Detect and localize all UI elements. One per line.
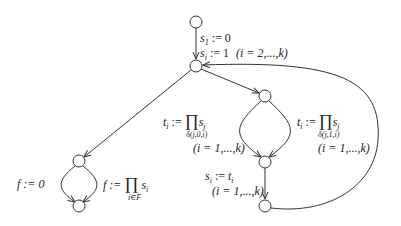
edge-f-prod bbox=[83, 166, 97, 202]
label-t-delta0: ti := ∏sj bbox=[163, 112, 206, 131]
node-left-bottom bbox=[73, 200, 85, 212]
label-s-update-range: (i = 1,...,k) bbox=[212, 185, 264, 197]
label-t-delta1-range: (i = 1,...,k) bbox=[318, 142, 370, 154]
node-right-mid bbox=[259, 156, 271, 168]
label-init-s1: s1 := 0 bbox=[200, 32, 231, 47]
node-right-bottom bbox=[259, 200, 271, 212]
edge-f-zero bbox=[61, 166, 75, 202]
label-init-si: si := 1 (i = 2,...,k) bbox=[200, 47, 288, 62]
label-t-delta1: ti := ∏sj bbox=[297, 112, 340, 131]
label-t-delta1-under: δ(j,1,i) bbox=[318, 131, 340, 139]
node-right-top bbox=[259, 90, 271, 102]
label-t-delta0-range: (i = 1,...,k) bbox=[193, 142, 245, 154]
node-left-top bbox=[73, 155, 85, 167]
node-start bbox=[190, 16, 202, 28]
label-t-delta0-under: δ(j,0,i) bbox=[186, 131, 208, 139]
edge-hub-right bbox=[201, 69, 259, 93]
label-f-prod-under: i∈F bbox=[128, 194, 141, 202]
label-f-zero: f := 0 bbox=[17, 178, 44, 190]
edge-t-right-branch bbox=[269, 101, 290, 157]
label-s-update: si := ti bbox=[205, 170, 234, 185]
label-f-prod: f := ∏ si bbox=[103, 175, 148, 194]
